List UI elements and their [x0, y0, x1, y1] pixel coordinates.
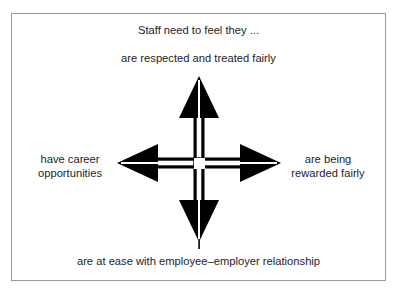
arrow-left-icon: [117, 144, 200, 182]
label-left-career-opportunities: have career opportunities: [18, 152, 122, 181]
cross-center-gap: [194, 158, 205, 169]
arrow-down-icon: [179, 160, 219, 249]
scan-remnant-text: · · · · · · · · · ·: [0, 0, 397, 4]
figure-page: · · · · · · · · · · Staff need to feel t…: [0, 0, 397, 295]
label-right-line-2: rewarded fairly: [275, 166, 381, 180]
label-bottom-employee-employer-relationship: are at ease with employee–employer relat…: [12, 254, 385, 268]
label-left-line-1: have career: [18, 152, 122, 166]
arrow-right-icon: [198, 144, 281, 182]
label-right-line-1: are being: [275, 152, 381, 166]
label-left-line-2: opportunities: [18, 166, 122, 180]
figure-frame: Staff need to feel they ... are respecte…: [11, 13, 386, 281]
label-top-respected-and-treated-fairly: are respected and treated fairly: [12, 51, 385, 65]
arrow-up-icon: [179, 76, 219, 166]
label-right-rewarded-fairly: are being rewarded fairly: [275, 152, 381, 181]
heading-staff-need-to-feel-they: Staff need to feel they ...: [12, 23, 385, 37]
